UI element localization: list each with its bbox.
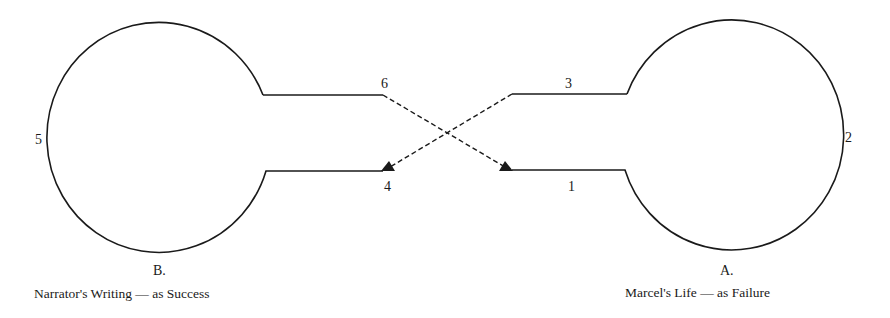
dashed-path-6-to-1 [383,95,505,167]
point-label-2: 2 [845,131,852,145]
point-label-3: 3 [565,77,572,91]
point-label-6: 6 [381,77,388,91]
right-balloon-outline [512,20,844,250]
left-balloon-outline [47,22,383,252]
right-balloon-letter: A. [720,264,734,278]
point-label-5: 5 [35,133,42,147]
arrowhead-at-1-icon [499,161,513,171]
left-balloon-caption: Narrator's Writing — as Success [34,287,210,301]
diagram-canvas [0,0,890,318]
point-label-1: 1 [568,180,575,194]
dashed-path-3-to-4 [390,94,512,167]
point-label-4: 4 [384,180,391,194]
right-balloon-caption: Marcel's Life — as Failure [625,286,770,300]
left-balloon-letter: B. [153,264,166,278]
